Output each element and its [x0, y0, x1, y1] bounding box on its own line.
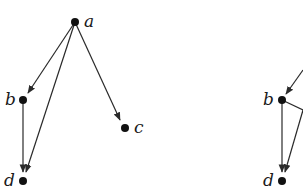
- diagram-canvas: a b c d b d: [0, 0, 303, 191]
- node-b-right: [278, 96, 286, 104]
- edge-a-c: [75, 22, 120, 120]
- label-b: b: [5, 89, 16, 109]
- edge-offscreen-b: [286, 70, 303, 94]
- edge-a-d: [26, 22, 75, 172]
- node-b: [19, 96, 27, 104]
- right-graph: b d: [263, 70, 303, 190]
- node-c: [121, 124, 129, 132]
- node-a: [71, 18, 79, 26]
- label-a: a: [84, 11, 94, 31]
- edge-a-b: [28, 22, 75, 93]
- left-graph: a b c d: [4, 11, 144, 190]
- label-d-right: d: [263, 170, 274, 190]
- edge-offscreen-d: [285, 110, 303, 172]
- label-d: d: [4, 170, 15, 190]
- node-d-right: [278, 177, 286, 185]
- label-b-right: b: [263, 89, 274, 109]
- node-d: [19, 177, 27, 185]
- label-c: c: [134, 117, 144, 137]
